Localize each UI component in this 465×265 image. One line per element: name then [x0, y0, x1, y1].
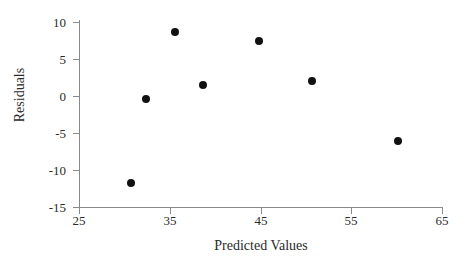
- y-axis-tick-label: -5: [55, 127, 66, 140]
- scatter-point: [394, 137, 402, 145]
- y-axis-tick-label: 10: [53, 16, 66, 29]
- y-axis-tick-label: 0: [60, 90, 67, 103]
- y-axis-tick: [73, 59, 79, 60]
- y-axis-tick-label: -10: [49, 164, 66, 177]
- residual-plot-figure: 1050-5-10-15 2535455565 Residuals Predic…: [0, 0, 465, 265]
- y-axis-tick-label-slot: 10: [0, 16, 66, 29]
- scatter-point: [199, 81, 207, 89]
- y-axis-tick: [73, 96, 79, 97]
- scatter-point: [142, 95, 150, 103]
- scatter-point: [171, 28, 179, 36]
- y-axis-tick: [73, 170, 79, 171]
- x-axis-tick-label: 45: [255, 214, 268, 227]
- x-axis-tick-label: 65: [436, 214, 449, 227]
- y-axis-tick-label-slot: -5: [0, 127, 66, 140]
- scatter-point: [255, 37, 263, 45]
- x-axis-title: Predicted Values: [79, 239, 443, 253]
- y-axis-line: [79, 20, 80, 208]
- y-axis-tick-label: 5: [60, 53, 67, 66]
- y-axis-tick: [73, 133, 79, 134]
- scatter-point: [308, 77, 316, 85]
- y-axis-tick: [73, 22, 79, 23]
- x-axis-tick-label: 55: [345, 214, 358, 227]
- x-axis-tick-label: 25: [73, 214, 86, 227]
- y-axis-tick-label: -15: [49, 201, 66, 214]
- x-axis-tick-label: 35: [164, 214, 177, 227]
- y-axis-tick-label-slot: 0: [0, 90, 66, 103]
- y-axis-title: Residuals: [13, 35, 27, 155]
- y-axis-tick-label-slot: -10: [0, 164, 66, 177]
- y-axis-tick-label-slot: 5: [0, 53, 66, 66]
- scatter-point: [127, 179, 135, 187]
- y-axis-tick-label-slot: -15: [0, 201, 66, 214]
